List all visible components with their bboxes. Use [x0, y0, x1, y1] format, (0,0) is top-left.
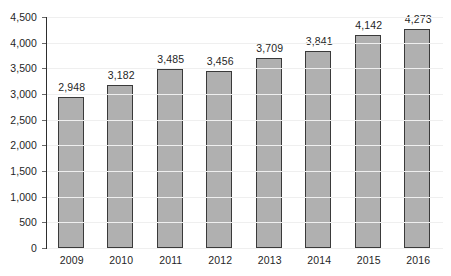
y-axis-tick — [42, 68, 46, 69]
y-axis-tick-label: 3,000 — [0, 89, 37, 100]
x-axis-category-label: 2009 — [49, 255, 95, 266]
bar-group: 3,4562012 — [197, 0, 243, 276]
y-axis-tick-label: 4,500 — [0, 12, 37, 23]
y-axis-tick-label: 2,000 — [0, 140, 37, 151]
y-axis-tick-label: 0 — [0, 243, 37, 254]
bar[interactable] — [107, 85, 133, 248]
x-axis-category-label: 2015 — [346, 255, 392, 266]
bar-value-label: 4,273 — [395, 14, 441, 25]
y-axis-tick — [42, 222, 46, 223]
bar-group: 3,8412014 — [296, 0, 342, 276]
x-axis-category-label: 2012 — [197, 255, 243, 266]
y-axis-tick — [42, 17, 46, 18]
y-axis-tick — [42, 43, 46, 44]
bar-value-label: 3,709 — [247, 43, 293, 54]
bar-chart: 05001,0001,5002,0002,5003,0003,5004,0004… — [0, 0, 451, 276]
plot-area: 2,94820093,18220103,48520113,45620123,70… — [47, 0, 443, 276]
bar-value-label: 2,948 — [49, 82, 95, 93]
bar-group: 3,1822010 — [98, 0, 144, 276]
gridline — [47, 17, 443, 18]
y-axis-line — [46, 17, 47, 249]
y-axis-tick-label: 3,500 — [0, 63, 37, 74]
y-axis-tick-label: 500 — [0, 217, 37, 228]
x-axis-category-label: 2016 — [395, 255, 441, 266]
bar-group: 4,2732016 — [395, 0, 441, 276]
gridline — [47, 197, 443, 198]
y-axis-tick — [42, 145, 46, 146]
bar[interactable] — [256, 58, 282, 248]
bar-group: 3,7092013 — [247, 0, 293, 276]
gridline — [47, 248, 443, 249]
y-axis-tick — [42, 248, 46, 249]
x-axis-category-label: 2010 — [98, 255, 144, 266]
gridline — [47, 171, 443, 172]
x-axis-category-label: 2013 — [247, 255, 293, 266]
gridline — [47, 43, 443, 44]
y-axis-tick-label: 4,000 — [0, 37, 37, 48]
gridline — [47, 145, 443, 146]
y-axis-tick-label: 2,500 — [0, 114, 37, 125]
gridline — [47, 68, 443, 69]
bar[interactable] — [157, 69, 183, 248]
y-axis-tick — [42, 171, 46, 172]
bar-value-label: 4,142 — [346, 20, 392, 31]
y-axis-tick-label: 1,000 — [0, 191, 37, 202]
bar-group: 3,4852011 — [148, 0, 194, 276]
bar[interactable] — [355, 35, 381, 248]
y-axis-tick — [42, 197, 46, 198]
y-axis-labels: 05001,0001,5002,0002,5003,0003,5004,0004… — [0, 0, 42, 276]
x-axis-category-label: 2011 — [148, 255, 194, 266]
bar-group: 4,1422015 — [346, 0, 392, 276]
bar[interactable] — [404, 29, 430, 248]
bar-value-label: 3,182 — [98, 70, 144, 81]
bar[interactable] — [305, 51, 331, 248]
bar-value-label: 3,456 — [197, 56, 243, 67]
bar-value-label: 3,841 — [296, 36, 342, 47]
gridline — [47, 94, 443, 95]
gridline — [47, 120, 443, 121]
bar-group: 2,9482009 — [49, 0, 95, 276]
y-axis-tick — [42, 94, 46, 95]
gridline — [47, 222, 443, 223]
y-axis-tick-label: 1,500 — [0, 166, 37, 177]
x-axis-category-label: 2014 — [296, 255, 342, 266]
bar-value-label: 3,485 — [148, 54, 194, 65]
y-axis-tick — [42, 120, 46, 121]
